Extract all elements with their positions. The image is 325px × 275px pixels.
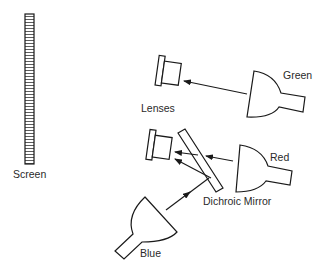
diagram-canvas	[0, 0, 325, 275]
red-beam-arrow	[206, 156, 233, 161]
lens-lower-icon	[146, 129, 173, 162]
screen-shape	[25, 14, 34, 164]
blue-label: Blue	[140, 248, 161, 259]
green-beam-arrow	[184, 81, 247, 94]
dichroic-mirror-label: Dichroic Mirror	[203, 196, 271, 207]
dichroic-mirror-icon	[178, 129, 223, 192]
lenses-label: Lenses	[141, 103, 175, 114]
screen-label: Screen	[13, 169, 46, 180]
blue-beam-line	[189, 178, 209, 193]
green-label: Green	[283, 70, 312, 81]
lens-upper-icon	[155, 55, 182, 88]
blue-beam-arrow	[166, 192, 190, 210]
red-label: Red	[270, 152, 289, 163]
optical-diagram: Screen Lenses Green Red Dichroic Mirror …	[0, 0, 325, 275]
